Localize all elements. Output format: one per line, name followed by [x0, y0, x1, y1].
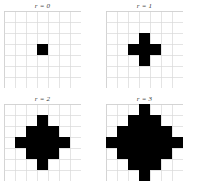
filled-cell — [37, 44, 48, 55]
panel-r1: r = 1 — [106, 2, 183, 88]
filled-cell — [37, 115, 48, 126]
grid-r1 — [106, 11, 183, 88]
filled-cell — [117, 148, 128, 159]
panel-label-r1: r = 1 — [137, 2, 152, 11]
filled-cell — [26, 126, 37, 137]
filled-cell — [26, 148, 37, 159]
filled-cell — [150, 159, 161, 170]
panel-label-r0: r = 0 — [35, 2, 50, 11]
panel-r3: r = 3 — [106, 95, 183, 181]
filled-cell — [48, 137, 59, 148]
filled-cell — [150, 137, 161, 148]
grid-r3 — [106, 104, 183, 181]
filled-cells-r1 — [106, 11, 183, 88]
filled-cell — [139, 170, 150, 181]
filled-cell — [139, 104, 150, 115]
filled-cell — [15, 137, 26, 148]
filled-cell — [37, 126, 48, 137]
filled-cells-r2 — [4, 104, 81, 181]
panel-r2: r = 2 — [4, 95, 81, 181]
panel-label-r3: r = 3 — [137, 95, 152, 104]
filled-cell — [150, 44, 161, 55]
filled-cells-r3 — [106, 104, 183, 181]
filled-cell — [150, 115, 161, 126]
filled-cell — [37, 137, 48, 148]
filled-cell — [150, 148, 161, 159]
filled-cell — [48, 148, 59, 159]
filled-cell — [26, 137, 37, 148]
filled-cell — [161, 137, 172, 148]
filled-cell — [172, 137, 183, 148]
filled-cell — [161, 126, 172, 137]
grid-r0 — [4, 11, 81, 88]
filled-cell — [139, 55, 150, 66]
grid-r2 — [4, 104, 81, 181]
filled-cell — [37, 148, 48, 159]
filled-cell — [117, 137, 128, 148]
panel-r0: r = 0 — [4, 2, 81, 88]
filled-cell — [139, 33, 150, 44]
filled-cell — [139, 148, 150, 159]
filled-cell — [117, 126, 128, 137]
panel-label-r2: r = 2 — [35, 95, 50, 104]
filled-cell — [59, 137, 70, 148]
filled-cell — [139, 159, 150, 170]
filled-cell — [128, 115, 139, 126]
filled-cell — [128, 126, 139, 137]
filled-cell — [128, 148, 139, 159]
filled-cell — [128, 137, 139, 148]
filled-cell — [106, 137, 117, 148]
taxicab-balls-figure: r = 0 r = 1 r = 2 r = 3 — [0, 0, 203, 188]
filled-cell — [128, 159, 139, 170]
filled-cell — [139, 126, 150, 137]
filled-cell — [139, 137, 150, 148]
filled-cell — [128, 44, 139, 55]
filled-cell — [37, 159, 48, 170]
filled-cell — [139, 115, 150, 126]
filled-cell — [139, 44, 150, 55]
filled-cell — [150, 126, 161, 137]
filled-cells-r0 — [4, 11, 81, 88]
filled-cell — [161, 148, 172, 159]
filled-cell — [48, 126, 59, 137]
